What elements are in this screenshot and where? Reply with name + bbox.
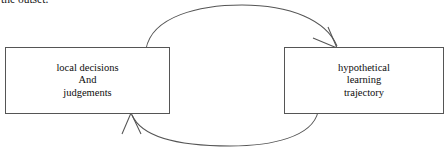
node-hypothetical-trajectory-line-1: hypothetical (338, 62, 390, 75)
node-hypothetical-trajectory[interactable]: hypothetical learning trajectory (284, 47, 444, 114)
node-hypothetical-trajectory-line-2: learning (347, 74, 381, 87)
node-local-decisions[interactable]: local decisions And judgements (5, 47, 170, 114)
top-arc-edge (146, 5, 337, 49)
node-local-decisions-line-3: judgements (63, 87, 111, 100)
diagram-page: the outset. local decisions And judgemen… (0, 0, 448, 154)
bottom-arc-arrowhead (122, 113, 141, 134)
node-local-decisions-line-1: local decisions (56, 62, 118, 75)
top-arc-arrowhead (313, 27, 337, 48)
node-local-decisions-line-2: And (78, 74, 96, 87)
body-text-fragment: the outset. (1, 0, 48, 6)
bottom-arc-edge (132, 112, 318, 146)
node-hypothetical-trajectory-line-3: trajectory (344, 87, 384, 100)
